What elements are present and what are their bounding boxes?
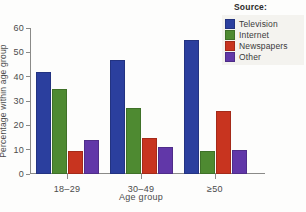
bar[interactable] bbox=[126, 108, 141, 174]
bar-group: 30–49 bbox=[104, 28, 178, 174]
legend-item[interactable]: Other bbox=[225, 51, 302, 62]
legend-item-label: Television bbox=[239, 19, 278, 29]
x-axis-tick-mark bbox=[141, 174, 142, 179]
bar[interactable] bbox=[52, 89, 67, 174]
bar-groups: 18–2930–49≥50 bbox=[30, 28, 252, 174]
bar[interactable] bbox=[216, 111, 231, 174]
bar[interactable] bbox=[232, 150, 247, 174]
y-axis-tick: 60 bbox=[14, 23, 30, 33]
y-axis-tick-label: 20 bbox=[14, 120, 24, 130]
x-axis-tick-mark bbox=[215, 174, 216, 179]
legend-swatch-icon bbox=[225, 52, 235, 62]
bar[interactable] bbox=[84, 140, 99, 174]
legend-item[interactable]: Television bbox=[225, 18, 302, 29]
x-axis-label: Age group bbox=[30, 192, 252, 202]
legend-item[interactable]: Internet bbox=[225, 29, 302, 40]
legend-swatch-icon bbox=[225, 30, 235, 40]
bar[interactable] bbox=[110, 60, 125, 174]
legend-item-label: Internet bbox=[239, 30, 269, 40]
plot-area: 0102030405060 18–2930–49≥50 bbox=[30, 28, 252, 174]
figure-caption bbox=[0, 205, 306, 212]
x-axis-tick-mark bbox=[67, 174, 68, 179]
bar[interactable] bbox=[184, 40, 199, 174]
y-axis-tick-label: 40 bbox=[14, 72, 24, 82]
legend-swatch-icon bbox=[225, 41, 235, 51]
legend-item-label: Newspapers bbox=[239, 41, 288, 51]
legend-item-label: Other bbox=[239, 52, 261, 62]
bar[interactable] bbox=[158, 147, 173, 174]
figure-container: Percentage within age group 010203040506… bbox=[0, 0, 306, 212]
y-axis-tick: 20 bbox=[14, 120, 30, 130]
legend-items: TelevisionInternetNewspapersOther bbox=[222, 15, 304, 65]
legend: Source: TelevisionInternetNewspapersOthe… bbox=[222, 2, 304, 68]
legend-item[interactable]: Newspapers bbox=[225, 40, 302, 51]
y-axis-tick-label: 60 bbox=[14, 23, 24, 33]
legend-title: Source: bbox=[222, 2, 304, 12]
y-axis-tick-label: 10 bbox=[14, 145, 24, 155]
y-axis-label: Percentage within age group bbox=[0, 28, 10, 174]
y-axis-tick: 50 bbox=[14, 47, 30, 57]
y-axis-tick-label: 30 bbox=[14, 96, 24, 106]
legend-swatch-icon bbox=[225, 19, 235, 29]
bar[interactable] bbox=[68, 151, 83, 174]
bar-group: 18–29 bbox=[30, 28, 104, 174]
y-axis-tick-label: 0 bbox=[19, 169, 24, 179]
y-axis-tick: 10 bbox=[14, 145, 30, 155]
bar[interactable] bbox=[200, 151, 215, 174]
bar[interactable] bbox=[36, 72, 51, 174]
y-axis-tick-label: 50 bbox=[14, 47, 24, 57]
y-axis-tick: 40 bbox=[14, 72, 30, 82]
y-axis-tick: 30 bbox=[14, 96, 30, 106]
bar[interactable] bbox=[142, 138, 157, 175]
y-axis-tick: 0 bbox=[19, 169, 30, 179]
